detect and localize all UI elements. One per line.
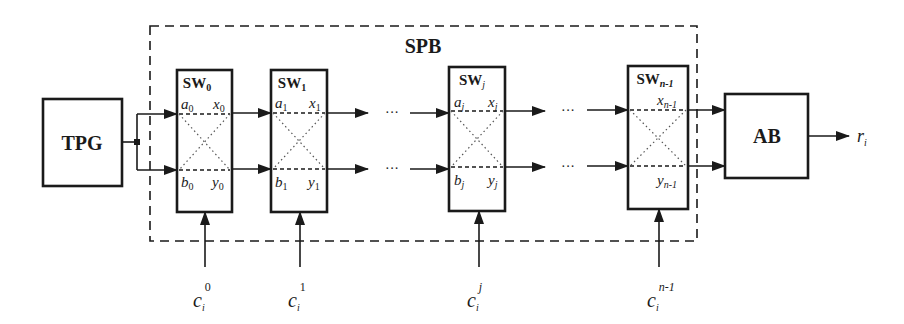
junction-dot-icon <box>134 139 140 145</box>
sw0-box <box>177 70 232 212</box>
switch-sw1: SW1 a1 x1 b1 y1 <box>271 70 327 212</box>
switch-chain-block-diagram: SPB TPG SW0 a0 x0 b0 y0 SW1 a1 x1 <box>0 0 904 324</box>
ellipsis-bottom-1: ··· <box>385 161 399 176</box>
switch-swn-1: SWn-1 xn-1 yn-1 <box>628 66 688 209</box>
control-label-j: cij <box>467 280 483 313</box>
ab-block: AB <box>725 94 808 178</box>
control-input-1: ci1 <box>288 212 306 313</box>
output-label: ri <box>857 126 867 148</box>
ellipsis-bottom-2: ··· <box>561 159 575 174</box>
switch-swj: SWj aj xj bj yj <box>449 67 505 211</box>
ellipsis-top-1: ··· <box>385 105 399 120</box>
control-label-n-1: cin-1 <box>647 280 675 313</box>
tpg-label: TPG <box>61 132 103 154</box>
tpg-block: TPG <box>43 99 122 186</box>
control-label-1: ci1 <box>288 280 306 313</box>
spb-label: SPB <box>405 35 442 57</box>
switch-sw0: SW0 a0 x0 b0 y0 <box>177 70 232 212</box>
control-input-j: cij <box>467 211 483 313</box>
ab-label: AB <box>753 125 781 147</box>
control-input-n-1: cin-1 <box>647 209 675 313</box>
swj-label: SWj <box>459 72 485 90</box>
control-input-0: ci0 <box>193 212 211 313</box>
control-label-0: ci0 <box>193 280 211 313</box>
ellipsis-top-2: ··· <box>561 103 575 118</box>
